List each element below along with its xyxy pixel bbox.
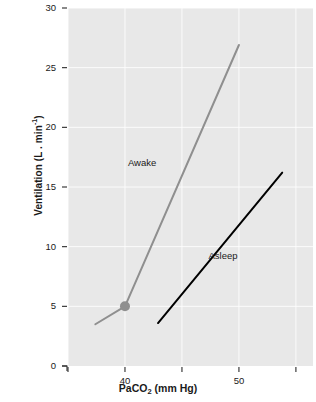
series-label-asleep: Asleep — [208, 250, 237, 261]
plot-canvas: AwakeAsleep — [0, 0, 316, 402]
axis-origin-corner — [62, 366, 67, 371]
data-point-marker-awake — [120, 301, 130, 311]
chart-figure: Ventilation (L . min-1) PaCO2 (mm Hg) 05… — [0, 0, 316, 402]
series-label-awake: Awake — [128, 157, 156, 168]
